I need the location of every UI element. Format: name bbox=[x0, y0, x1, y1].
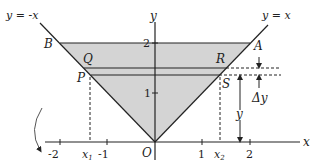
origin-label: O bbox=[142, 146, 152, 160]
x-tick-label-neg2: -2 bbox=[48, 148, 59, 161]
height-y-label: y bbox=[235, 107, 243, 121]
x2-label: x2 bbox=[214, 148, 225, 162]
curved-arrow bbox=[34, 108, 42, 150]
point-P-label: P bbox=[76, 71, 86, 85]
diagram-svg: y = -x y = x y x O -2 -1 1 2 1 2 x1 x2 B… bbox=[0, 0, 321, 168]
point-Q-label: Q bbox=[83, 52, 93, 66]
x-axis-label: x bbox=[303, 135, 310, 149]
x-tick-label-1: 1 bbox=[198, 148, 205, 161]
point-B-label: B bbox=[43, 37, 53, 51]
label-y-eq-x: y = x bbox=[261, 9, 291, 22]
y-tick-label-1: 1 bbox=[144, 87, 151, 100]
x-tick-label-2: 2 bbox=[246, 148, 253, 161]
x-tick-label-neg1: -1 bbox=[98, 148, 109, 161]
point-R-label: R bbox=[215, 52, 225, 66]
label-y-eq-neg-x: y = -x bbox=[5, 9, 39, 22]
y-axis-label: y bbox=[149, 9, 157, 23]
diagram-canvas: y = -x y = x y x O -2 -1 1 2 1 2 x1 x2 B… bbox=[0, 0, 321, 168]
point-A-label: A bbox=[253, 39, 263, 53]
delta-y-label: Δy bbox=[251, 91, 268, 105]
point-S-label: S bbox=[222, 77, 230, 91]
x1-label: x1 bbox=[82, 148, 93, 162]
y-tick-label-2: 2 bbox=[143, 37, 150, 50]
